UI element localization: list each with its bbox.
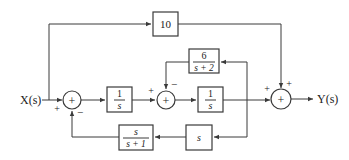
feedback-s1-num: s	[134, 126, 138, 137]
feedback-s1-den: s + 1	[126, 139, 146, 149]
input-label: X(s)	[20, 93, 41, 107]
integrator2-num: 1	[208, 88, 213, 99]
sum1-symbol: +	[69, 94, 76, 108]
summing-junction-1: + + −	[54, 91, 83, 118]
sum2-sign-top: −	[171, 78, 177, 90]
sum3-sign-left: +	[264, 83, 270, 94]
block-diagram: X(s) 10 + + − 1 s + + − 1 s	[0, 0, 349, 160]
summing-junction-2: + + −	[148, 78, 177, 109]
feedback6-to-sum2-line	[166, 62, 189, 89]
sum3-sign-top: +	[286, 78, 292, 89]
feedforward-line	[49, 24, 151, 100]
summing-junction-3: + + +	[264, 78, 292, 109]
feedback-6-over-s-plus-2-block: 6 s + 2	[189, 49, 219, 73]
gain-10-text: 10	[160, 18, 172, 30]
derivative-s-block: s	[186, 125, 212, 150]
sum1-sign-bottom: −	[77, 106, 83, 118]
feedback-s-over-s-plus-1-block: s s + 1	[119, 125, 153, 150]
sum2-sign-left: +	[148, 85, 154, 96]
gain-10-block: 10	[153, 12, 178, 36]
integrator-2-block: 1 s	[198, 87, 223, 112]
derivative-text: s	[197, 132, 201, 143]
feedback6-den: s + 2	[194, 63, 214, 73]
output-label: Y(s)	[317, 92, 338, 106]
integrator1-num: 1	[117, 88, 122, 99]
integrator2-den: s	[209, 100, 213, 111]
inner-feedback-line	[221, 62, 247, 100]
integrator-1-block: 1 s	[107, 87, 132, 112]
sum2-symbol: +	[163, 94, 170, 108]
sum3-symbol: +	[278, 93, 285, 107]
feedback6-num: 6	[202, 50, 207, 61]
sum1-sign-left: +	[54, 103, 60, 114]
integrator1-den: s	[118, 100, 122, 111]
